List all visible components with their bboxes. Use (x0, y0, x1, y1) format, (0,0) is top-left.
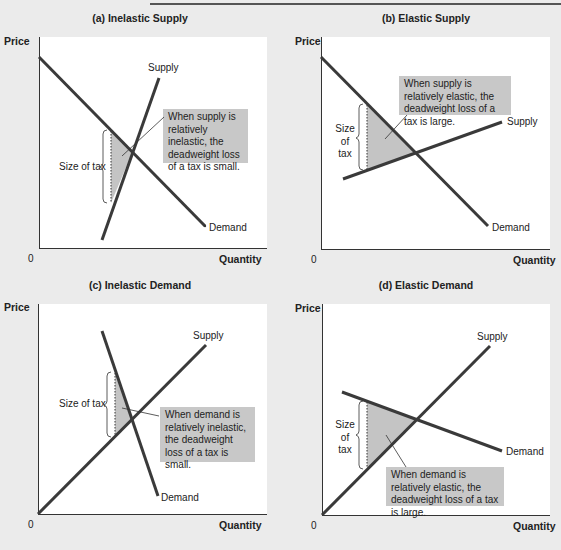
curves-layer (0, 0, 561, 550)
tax-brace-icon (104, 372, 111, 437)
demand-curve (342, 392, 502, 451)
demand-curve (39, 57, 205, 226)
tax-brace-icon (100, 130, 107, 203)
demand-endpoint (204, 225, 206, 227)
supply-curve (38, 345, 206, 514)
supply-curve (322, 346, 490, 515)
tax-brace-icon (356, 104, 363, 170)
demand-curve (321, 57, 488, 226)
tax-brace-icon (356, 401, 363, 469)
demand-curve (102, 331, 158, 496)
